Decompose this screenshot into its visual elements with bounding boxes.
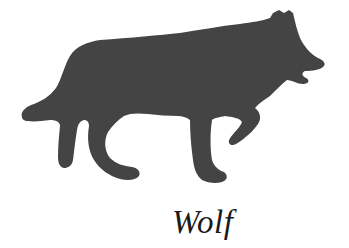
figure-caption: Wolf: [0, 203, 349, 241]
figure: Wolf: [0, 0, 349, 248]
wolf-silhouette-icon: [0, 0, 349, 200]
wolf-body-shape: [22, 10, 325, 183]
